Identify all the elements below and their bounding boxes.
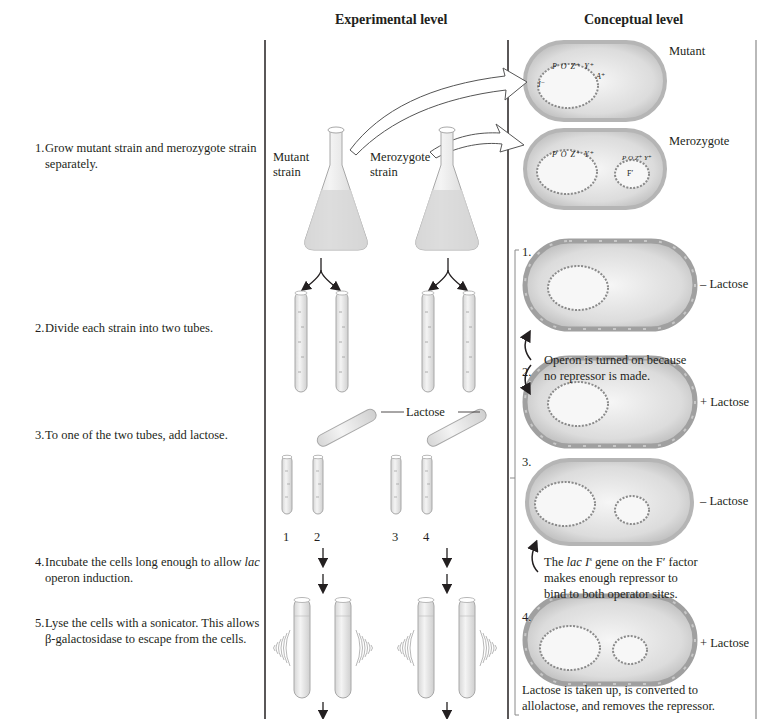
panel-4-condition: + Lactose: [700, 636, 749, 651]
tube-number-4: 4: [423, 530, 429, 545]
experimental-level-header: Experimental level: [335, 12, 447, 28]
mutant-i-gene: I⁻: [538, 80, 545, 89]
caption-lactose-uptake: Lactose is taken up, is converted to all…: [522, 682, 715, 714]
step-2: 2.Divide each strain into two tubes.: [35, 320, 285, 336]
step-3: 3.To one of the two tubes, add lactose.: [35, 427, 285, 443]
lactose-label: Lactose: [406, 405, 445, 420]
step-4: 4.Incubate the cells long enough to allo…: [35, 554, 285, 586]
f-factor-gene-labels: P O Z⁺ Y⁺: [622, 154, 652, 162]
tube-number-1: 1: [283, 530, 289, 545]
mutant-cell-label: Mutant: [669, 44, 705, 59]
flask-to-cell-arrows: [350, 68, 527, 158]
panel-1-cell: [525, 241, 695, 329]
panel-4-cell: [525, 596, 695, 684]
merozygote-cell-label: Merozygote: [669, 134, 729, 149]
panel-4-number: 4.: [522, 610, 531, 625]
merozygote-cell: [525, 130, 665, 208]
merozygote-strain-label: Merozygote strain: [370, 150, 430, 180]
tube-number-3: 3: [392, 530, 398, 545]
mutant-a-gene: A⁺: [596, 72, 605, 81]
panel-1-number: 1.: [522, 245, 531, 260]
step-1: 1.Grow mutant strain and merozygote stra…: [35, 140, 285, 172]
tube-number-2: 2: [314, 530, 320, 545]
panel-3-cell: [527, 460, 692, 544]
panel-2-number: 2.: [522, 365, 531, 380]
panel-3-condition: – Lactose: [700, 494, 748, 509]
mutant-cell: [525, 42, 665, 120]
step-5: 5.Lyse the cells with a sonicator. This …: [35, 615, 285, 647]
panel-1-condition: – Lactose: [700, 277, 748, 292]
caption-operon-on: Operon is turned on because no repressor…: [544, 352, 686, 384]
conceptual-level-header: Conceptual level: [584, 12, 683, 28]
merozygote-gene-labels: P O Z⁺ Y⁺: [552, 150, 595, 159]
mutant-strain-label: Mutant strain: [273, 150, 309, 180]
caption-lac-is-gene: The lac Is gene on the F′ factor makes e…: [544, 551, 698, 602]
mutant-gene-labels: P O Z⁺ Y⁺: [552, 62, 595, 71]
panel-2-condition: + Lactose: [700, 395, 749, 410]
f-prime-label: F′: [627, 169, 633, 178]
panel-3-number: 3.: [522, 455, 531, 470]
